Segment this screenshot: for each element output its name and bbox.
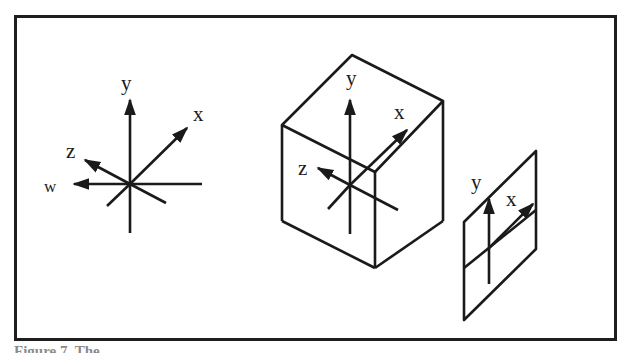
cube-x-axis-arrow <box>350 130 407 185</box>
cube-x-axis-label: x <box>394 100 405 124</box>
figure-diagram: y x z w y x z y x <box>0 0 632 353</box>
figure-caption: Figure 7. The <box>14 344 100 353</box>
z-axis-arrow <box>85 160 130 184</box>
x-axis-negative <box>107 184 130 206</box>
cube-z-axis-label: z <box>298 156 307 180</box>
cube-y-axis-label: y <box>346 66 357 90</box>
cube-top-face <box>282 55 443 172</box>
plane-x-axis-label: x <box>506 187 517 211</box>
cube-z-axis-arrow <box>318 168 350 185</box>
z-axis-label: z <box>66 139 75 163</box>
cube-bottom-right-edge <box>375 221 443 268</box>
four-axis-panel <box>74 100 202 233</box>
x-axis-label: x <box>193 102 204 126</box>
figure-frame <box>16 17 616 340</box>
y-axis-label: y <box>121 71 132 95</box>
x-axis-arrow <box>130 128 187 184</box>
w-axis-label: w <box>44 177 57 196</box>
cube-bottom-left-edge <box>282 221 375 268</box>
cube-x-axis-negative <box>328 185 350 209</box>
plane-y-axis-label: y <box>471 170 482 194</box>
z-axis-negative <box>130 184 166 203</box>
